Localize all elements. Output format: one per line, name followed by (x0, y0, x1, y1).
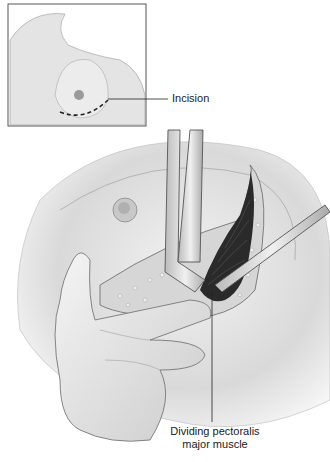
incision-label: Incision (172, 92, 209, 105)
muscle-label: Dividing pectoralis major muscle (150, 425, 280, 451)
inset-view (8, 4, 146, 126)
surgical-illustration (0, 0, 330, 462)
muscle-label-line2: major muscle (150, 438, 280, 451)
muscle-label-line1: Dividing pectoralis (150, 425, 280, 438)
main-view (18, 130, 330, 441)
inset-nipple (74, 90, 84, 100)
